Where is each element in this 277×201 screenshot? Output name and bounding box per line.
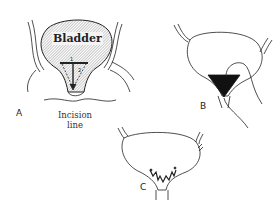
panel-a-label: A bbox=[16, 108, 22, 118]
bladder-label: Bladder bbox=[52, 32, 103, 45]
panel-b-drawing bbox=[174, 24, 272, 128]
incision-line-1: Incision bbox=[50, 110, 100, 120]
panel-b-label: B bbox=[200, 101, 206, 111]
incision-line-2: line bbox=[50, 120, 100, 130]
panel-c-drawing bbox=[118, 127, 203, 200]
step-1-number: 1 bbox=[70, 56, 73, 62]
step-2-number: 2 bbox=[78, 67, 81, 73]
surgical-illustration: 1 2 B C bbox=[0, 0, 277, 201]
panel-c-label: C bbox=[140, 182, 146, 192]
incision-line-label: Incision line bbox=[50, 110, 100, 130]
